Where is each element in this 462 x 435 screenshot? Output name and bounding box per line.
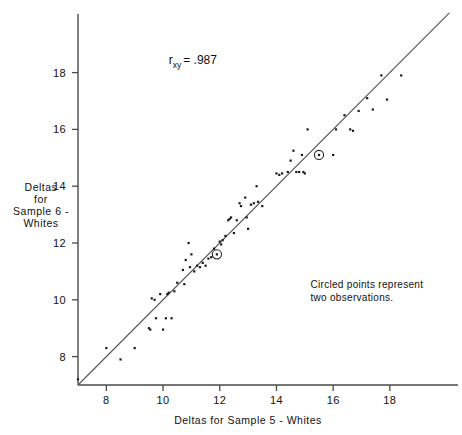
- identity-line: [78, 13, 449, 385]
- data-point: [246, 216, 248, 218]
- data-point: [275, 172, 277, 174]
- data-point: [253, 202, 255, 204]
- data-point: [281, 172, 283, 174]
- data-point: [343, 114, 345, 116]
- scatter-plot-figure: 81012141618 81012141618 rxy= .987 Circle…: [0, 0, 462, 435]
- data-point: [349, 128, 351, 130]
- data-point: [332, 154, 334, 156]
- data-point: [221, 239, 223, 241]
- data-point: [159, 293, 161, 295]
- x-tick-label: 12: [213, 394, 226, 406]
- x-tick-label: 16: [327, 394, 340, 406]
- data-point: [224, 235, 226, 237]
- data-point: [176, 282, 178, 284]
- correlation-subscript: xy: [173, 60, 182, 70]
- y-axis-title-line-3: Sample 6 -: [13, 205, 69, 217]
- data-point: [307, 128, 309, 130]
- data-point: [301, 154, 303, 156]
- data-point: [372, 108, 374, 110]
- data-point: [185, 259, 187, 261]
- data-point: [170, 317, 172, 319]
- correlation-annotation: rxy= .987: [169, 53, 218, 70]
- data-point: [189, 266, 191, 268]
- data-point: [207, 258, 209, 260]
- data-point: [77, 378, 79, 380]
- data-point: [250, 204, 252, 206]
- data-point: [183, 283, 185, 285]
- data-point: [219, 240, 221, 242]
- x-axis-title-label: Deltas for Sample 5 - Whites: [174, 414, 322, 426]
- data-point: [196, 265, 198, 267]
- y-tick-label: 18: [53, 67, 66, 79]
- data-point: [173, 290, 175, 292]
- data-point: [199, 266, 201, 268]
- data-point: [240, 205, 242, 207]
- data-point: [290, 160, 292, 162]
- data-point: [298, 171, 300, 173]
- correlation-label: rxy= .987: [169, 53, 218, 70]
- data-point: [400, 74, 402, 76]
- y-tick-label: 10: [53, 294, 66, 306]
- data-point: [233, 232, 235, 234]
- y-axis-title-line-2: for: [34, 193, 48, 205]
- data-point: [247, 228, 249, 230]
- data-point: [318, 154, 320, 156]
- data-point: [149, 329, 151, 331]
- data-point: [165, 317, 167, 319]
- data-point: [287, 171, 289, 173]
- data-point: [204, 265, 206, 267]
- data-point: [230, 216, 232, 218]
- data-point: [256, 185, 258, 187]
- axes-group: [78, 14, 458, 385]
- data-point: [105, 347, 107, 349]
- data-point: [358, 110, 360, 112]
- data-point: [236, 219, 238, 221]
- data-point: [190, 253, 192, 255]
- data-point: [278, 174, 280, 176]
- x-axis-ticks: 81012141618: [103, 385, 396, 406]
- note-line-2: two observations.: [310, 292, 393, 303]
- data-point: [292, 150, 294, 152]
- data-point: [386, 98, 388, 100]
- x-tick-label: 10: [157, 394, 170, 406]
- x-tick-label: 14: [270, 394, 283, 406]
- data-point: [216, 253, 218, 255]
- data-point: [213, 248, 215, 250]
- data-point: [295, 171, 297, 173]
- note-line-1: Circled points represent: [310, 279, 423, 290]
- x-tick-label: 8: [103, 394, 110, 406]
- x-tick-label: 18: [383, 394, 396, 406]
- data-point: [244, 196, 246, 198]
- data-point: [153, 299, 155, 301]
- y-tick-label: 8: [59, 351, 66, 363]
- data-point: [202, 262, 204, 264]
- data-point: [352, 130, 354, 132]
- y-axis-title-line-1: Deltas: [25, 181, 58, 193]
- data-point: [366, 97, 368, 99]
- identity-reference-line: [78, 13, 449, 385]
- y-tick-label: 16: [53, 123, 66, 135]
- circled-points-note: Circled points represent two observation…: [310, 279, 423, 303]
- data-point: [119, 358, 121, 360]
- plot-canvas: 81012141618 81012141618 rxy= .987 Circle…: [0, 0, 462, 435]
- data-point: [304, 172, 306, 174]
- y-tick-label: 12: [53, 237, 66, 249]
- data-point: [182, 269, 184, 271]
- data-point: [238, 202, 240, 204]
- data-points-group: [77, 74, 402, 380]
- data-point: [380, 74, 382, 76]
- correlation-value: = .987: [183, 53, 217, 67]
- y-axis-title-line-4: Whites: [23, 217, 58, 229]
- data-point: [187, 242, 189, 244]
- data-point: [168, 292, 170, 294]
- data-point: [193, 270, 195, 272]
- data-point: [162, 329, 164, 331]
- data-point: [261, 205, 263, 207]
- data-point: [257, 201, 259, 203]
- data-point: [220, 243, 222, 245]
- data-point: [134, 347, 136, 349]
- circled-points-group: [212, 150, 323, 259]
- data-point: [210, 256, 212, 258]
- x-axis-title: Deltas for Sample 5 - Whites: [174, 414, 322, 426]
- data-point: [151, 297, 153, 299]
